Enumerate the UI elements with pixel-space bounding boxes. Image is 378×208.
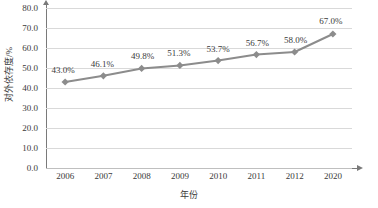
x-axis-tick-label: 2006 bbox=[56, 172, 74, 181]
data-point-label: 58.0% bbox=[284, 36, 307, 45]
line-series bbox=[46, 8, 352, 168]
y-axis-tick-label: 60.0 bbox=[22, 44, 38, 53]
data-point-marker bbox=[138, 65, 145, 72]
y-axis-title: 对外依存度/% bbox=[2, 35, 15, 115]
data-point-label: 53.7% bbox=[207, 45, 230, 54]
y-axis-tick-label: 20.0 bbox=[22, 124, 38, 133]
data-point-label: 49.8% bbox=[131, 52, 154, 61]
y-axis-tick-label: 0.0 bbox=[27, 164, 38, 173]
data-point-label: 56.7% bbox=[246, 39, 269, 48]
y-axis-tick-label: 80.0 bbox=[22, 4, 38, 13]
data-point-marker bbox=[176, 62, 183, 69]
y-axis-tick-label: 70.0 bbox=[22, 24, 38, 33]
y-axis-tick-label: 10.0 bbox=[22, 144, 38, 153]
data-point-label: 51.3% bbox=[167, 49, 190, 58]
y-axis-tick-label: 40.0 bbox=[22, 84, 38, 93]
x-axis-title: 年份 bbox=[0, 188, 378, 201]
data-point-marker bbox=[253, 51, 260, 58]
x-axis-arrow-icon bbox=[357, 165, 363, 171]
data-point-label: 43.0% bbox=[52, 66, 75, 75]
data-point-label: 67.0% bbox=[319, 17, 342, 26]
data-point-marker bbox=[62, 78, 69, 85]
x-axis-tick-label: 2011 bbox=[248, 172, 266, 181]
y-axis-tick-label: 30.0 bbox=[22, 104, 38, 113]
data-point-marker bbox=[329, 30, 336, 37]
data-point-marker bbox=[291, 48, 298, 55]
x-axis-tick-label: 2010 bbox=[209, 172, 227, 181]
x-axis-tick-label: 2012 bbox=[286, 172, 304, 181]
data-point-label: 46.1% bbox=[91, 60, 114, 69]
gridline bbox=[46, 168, 352, 169]
plot-area: 43.0%46.1%49.8%51.3%53.7%56.7%58.0%67.0% bbox=[46, 8, 352, 168]
y-axis-arrow-icon bbox=[43, 0, 49, 5]
x-axis-tick-label: 2020 bbox=[324, 172, 342, 181]
chart-container: 0.010.020.030.040.050.060.070.080.0 43.0… bbox=[0, 0, 378, 208]
x-axis-tick-label: 2007 bbox=[94, 172, 112, 181]
y-axis-tick-label: 50.0 bbox=[22, 64, 38, 73]
data-point-marker bbox=[100, 72, 107, 79]
x-axis-tick-labels: 20062007200820092010201120122020 bbox=[46, 172, 352, 188]
x-axis-tick-label: 2009 bbox=[171, 172, 189, 181]
data-point-marker bbox=[215, 57, 222, 64]
x-axis-tick-label: 2008 bbox=[133, 172, 151, 181]
